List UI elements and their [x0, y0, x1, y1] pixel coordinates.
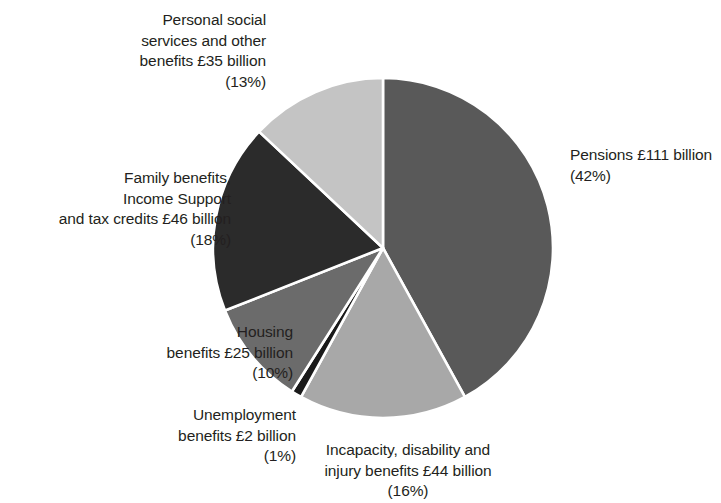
slice-label-incapacity: Incapacity, disability and injury benefi…: [288, 440, 528, 502]
slice-label-housing: Housing benefits £25 billion (10%): [78, 322, 293, 384]
pie-chart-figure: Pensions £111 billion (42%) Incapacity, …: [0, 0, 721, 503]
slice-label-pensions: Pensions £111 billion (42%): [570, 145, 721, 186]
slice-label-family-benefits: Family benefits, Income Support and tax …: [0, 168, 231, 250]
slice-label-personal-social-services: Personal social services and other benef…: [36, 10, 266, 92]
slice-label-unemployment: Unemployment benefits £2 billion (1%): [96, 405, 296, 467]
